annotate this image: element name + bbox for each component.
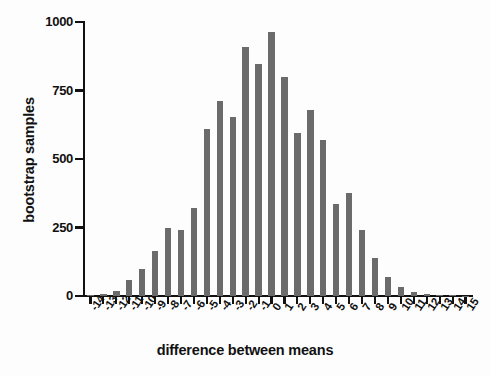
bar: [449, 295, 455, 296]
bar: [359, 230, 365, 296]
bar: [385, 277, 391, 296]
bar: [346, 193, 352, 296]
x-tick-label: 6: [347, 301, 360, 313]
bar: [126, 280, 132, 296]
bar: [320, 140, 326, 296]
bar: [436, 295, 442, 296]
y-tick-label: 0: [28, 288, 73, 303]
chart-figure: bootstrap samples 02505007501000 -14-13-…: [0, 0, 490, 376]
y-tick-label: 750: [28, 83, 73, 98]
bar: [411, 292, 417, 296]
bar: [178, 230, 184, 296]
y-tick-label: 250: [28, 220, 73, 235]
y-tick-label: 500: [28, 151, 73, 166]
bar: [294, 133, 300, 296]
x-tick-label: 2: [295, 301, 308, 313]
x-tick-label: 8: [373, 301, 386, 313]
bar: [113, 291, 119, 296]
bar: [268, 32, 274, 296]
bar: [255, 64, 261, 296]
bar: [217, 101, 223, 296]
bar: [307, 110, 313, 296]
bar: [165, 228, 171, 297]
y-tick: [75, 21, 83, 23]
y-tick: [75, 295, 83, 297]
y-tick: [75, 158, 83, 160]
bar: [87, 295, 93, 296]
bar: [398, 287, 404, 296]
y-tick: [75, 226, 83, 228]
bar: [372, 258, 378, 296]
y-tick-label: 1000: [28, 14, 73, 29]
bar: [281, 77, 287, 296]
bar: [230, 117, 236, 296]
x-axis-title: difference between means: [0, 342, 490, 358]
x-tick-label: 7: [360, 301, 373, 313]
bar: [152, 251, 158, 296]
x-tick-label: 4: [321, 301, 334, 313]
x-tick-label: 0: [270, 301, 283, 313]
bar: [139, 269, 145, 296]
bar: [191, 208, 197, 296]
bar: [333, 204, 339, 296]
x-tick-label: 9: [386, 301, 399, 313]
bar-series: [84, 22, 472, 296]
x-tick-label: 5: [334, 301, 347, 313]
x-tick-label: 3: [308, 301, 321, 313]
bar: [204, 129, 210, 296]
bar: [424, 294, 430, 296]
x-tick-label: 1: [282, 301, 295, 313]
bar: [100, 294, 106, 296]
bar: [242, 47, 248, 296]
y-tick: [75, 89, 83, 91]
